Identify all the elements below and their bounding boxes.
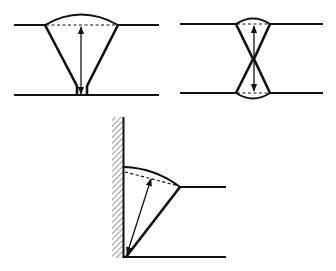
weld-throat-diagram	[0, 0, 336, 271]
top-weld-cap-arc	[236, 19, 270, 25]
double-v-weld-figure	[181, 19, 322, 99]
bottom-weld-cap-arc	[236, 93, 270, 99]
weld-cap-arc	[124, 167, 180, 187]
single-v-weld-figure	[15, 15, 158, 96]
x-groove-walls	[236, 24, 270, 93]
weld-cap-arc	[45, 15, 118, 26]
throat-arrow	[127, 179, 151, 254]
weld-face-line	[125, 172, 179, 186]
bevel-wall	[126, 187, 180, 257]
wall-hatching	[112, 117, 123, 258]
fillet-weld-figure	[112, 117, 225, 258]
